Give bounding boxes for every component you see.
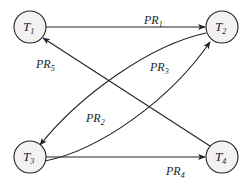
edge-label-pr4: PR4 [165,164,185,180]
node-t3: T3 [14,141,46,173]
node-t2: T2 [206,11,238,43]
edge-pr5 [43,38,210,146]
node-t4: T4 [206,141,238,173]
node-t1: T1 [14,11,46,43]
edge-label-pr5: PR5 [35,57,55,73]
edge-label-pr1: PR1 [143,13,163,29]
edge-pr2 [45,42,210,161]
edge-pr3 [40,33,206,145]
edge-label-pr2: PR2 [85,111,105,127]
graph-canvas: PR1 PR5 PR3 PR2 PR4 T1 T2 T3 T4 [0,0,248,185]
edge-label-pr3: PR3 [149,60,169,76]
